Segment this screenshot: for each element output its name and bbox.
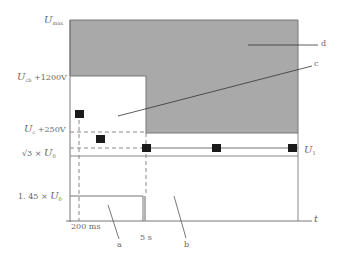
label-t-axis: t — [314, 213, 318, 224]
marker-u1-a — [212, 144, 221, 152]
marker-5s — [142, 144, 151, 152]
label-200ms: 200 ms — [71, 222, 101, 231]
label-5s: 5 s — [140, 233, 152, 242]
label-ucb-1200: Ucb +1200V — [17, 71, 67, 83]
label-region-d: d — [321, 39, 326, 48]
label-region-c: c — [314, 59, 318, 68]
label-145-u0: 1. 45 × U0 — [18, 190, 62, 202]
label-u1: U1 — [304, 144, 316, 156]
marker-200ms — [75, 110, 84, 118]
marker-u1-b — [288, 144, 297, 152]
label-umax: Umax — [44, 14, 63, 26]
label-uc-250: Uc +250V — [24, 123, 66, 135]
region-d-shaded — [70, 20, 298, 133]
label-sqrt3-u0: √3 × U0 — [22, 147, 56, 159]
label-region-a: a — [117, 240, 122, 249]
marker-mid — [96, 135, 105, 143]
label-region-b: b — [184, 240, 189, 249]
u145-u0-line — [70, 196, 143, 221]
leader-b — [174, 196, 186, 238]
leader-a — [108, 205, 119, 239]
